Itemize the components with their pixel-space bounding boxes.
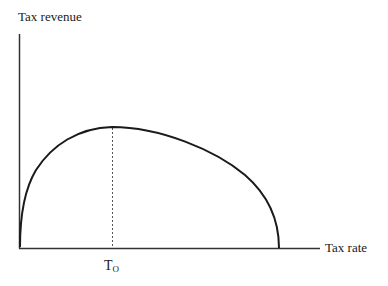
laffer-curve-diagram <box>0 0 388 286</box>
revenue-curve <box>20 127 279 248</box>
